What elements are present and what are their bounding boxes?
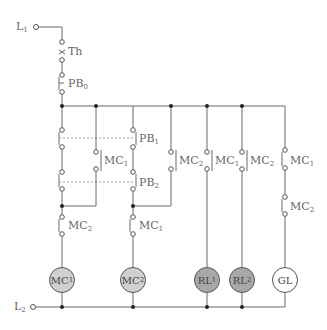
pb1-label: PB1 [139,133,159,146]
mc1-interlock-label: MC1 [139,220,163,233]
mc2-gl-label: MC2 [290,201,314,214]
lamp-gl: GL [272,267,298,293]
lamp-rl2: RL2 [229,267,255,293]
coil-mc2: MC2 [120,267,146,293]
thermal-relay-label: Th [68,46,82,57]
pb0-label: PB0 [68,78,88,91]
mc1-rl1-label: MC1 [215,155,239,168]
mc2-interlock-label: MC2 [68,220,92,233]
terminal-l2-label: L2 [14,301,26,314]
relay-ladder-diagram: L1 L2 Th PB0 PB1 PB2 MC1 MC2 MC1 MC2 MC1… [0,0,327,330]
terminal-l1-label: L1 [16,21,28,34]
mc2-rl2-label: MC2 [250,155,274,168]
coil-mc1: MC1 [49,267,75,293]
pb2-label: PB2 [139,177,159,190]
lamp-rl1: RL1 [194,267,220,293]
mc1-hold-label: MC1 [104,155,128,168]
mc2-hold-label: MC2 [179,155,203,168]
mc1-gl-label: MC1 [290,155,314,168]
